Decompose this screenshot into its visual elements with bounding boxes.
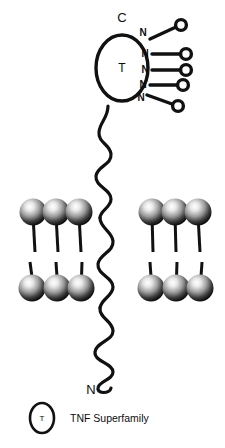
lipid-head-icon [163, 275, 190, 302]
lipid-head-icon [185, 199, 212, 226]
glycan-site-label-3: N [141, 64, 148, 75]
glycan-site-label-2: N [141, 48, 148, 59]
lipid-head-icon [139, 199, 166, 226]
n-terminus-label: N [86, 382, 95, 397]
lipid-head-icon [162, 199, 189, 226]
tnf-domain-symbol: T [118, 61, 126, 75]
lipid-head-icon [187, 275, 214, 302]
diagram-canvas: T C N N N [0, 0, 225, 448]
glycan-site-label-1: N [139, 27, 146, 38]
lipid-head-icon [44, 275, 71, 302]
glycan-site-label-4: N [139, 79, 146, 90]
glycan-terminal-2 [181, 49, 192, 60]
lipid-head-icon [19, 275, 46, 302]
lipid-head-icon [20, 199, 47, 226]
c-terminus-label: C [117, 10, 126, 25]
legend-symbol-label: T [40, 414, 45, 423]
legend-item-label: TNF Superfamily [70, 412, 150, 424]
lipid-head-icon [43, 199, 70, 226]
protein-topology-figure: T C N N N [0, 0, 225, 448]
glycan-site-label-5: N [137, 92, 144, 103]
lipid-head-icon [66, 199, 93, 226]
glycan-terminal-5 [173, 101, 184, 112]
glycan-terminal-3 [181, 65, 192, 76]
lipid-head-icon [138, 275, 165, 302]
lipid-head-icon [68, 275, 95, 302]
glycan-terminal-1 [176, 20, 187, 31]
glycan-terminal-4 [178, 80, 189, 91]
